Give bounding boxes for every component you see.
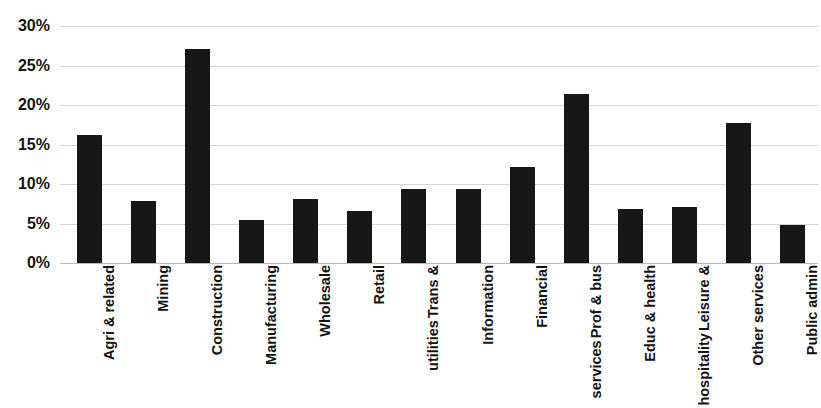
bar: [564, 94, 589, 263]
x-axis-tick-label: Wholesale: [318, 265, 348, 408]
bar: [239, 220, 264, 263]
x-axis-tick-label: Financial: [535, 265, 565, 408]
x-axis-tick-label-line: Leisure &: [697, 265, 712, 331]
y-axis-tick-label: 25%: [0, 58, 50, 74]
y-axis-tick-label: 30%: [0, 18, 50, 34]
y-axis-tick-label: 10%: [0, 176, 50, 192]
bar: [77, 135, 102, 263]
x-axis-labels: Agri & relatedMiningConstructionManufact…: [60, 265, 818, 408]
bar: [347, 211, 372, 263]
bar: [510, 167, 535, 263]
x-axis-tick-label-line: hospitality: [697, 333, 712, 406]
x-axis-tick-label: Information: [481, 265, 511, 408]
y-axis-tick-label: 20%: [0, 97, 50, 113]
bar: [293, 199, 318, 263]
axis-baseline: [60, 263, 818, 264]
x-axis-tick-label: Other services: [751, 265, 781, 408]
x-axis-tick-label: Retail: [372, 265, 402, 408]
x-axis-tick-label-line: Prof & bus: [589, 265, 604, 338]
bar: [456, 189, 481, 263]
y-axis-tick-label: 15%: [0, 137, 50, 153]
x-axis-tick-label: Manufacturing: [264, 265, 294, 408]
x-axis-tick-label: Agri & related: [102, 265, 132, 408]
x-axis-tick-label-line: utilities: [426, 320, 441, 371]
x-axis-tick-label-line: Trans &: [426, 265, 441, 318]
x-axis-tick-label-line: Financial: [535, 265, 550, 328]
x-axis-tick-label: Mining: [156, 265, 186, 408]
x-axis-tick-label: Educ & health: [643, 265, 673, 408]
bar: [131, 201, 156, 263]
x-axis-tick-label: Public admin: [805, 265, 821, 408]
x-axis-tick-label-line: Public admin: [805, 265, 820, 355]
x-axis-tick-label: Leisure &hospitality: [697, 265, 727, 408]
bar: [401, 189, 426, 263]
x-axis-tick-label-line: Educ & health: [643, 265, 658, 362]
bar: [726, 123, 751, 263]
x-axis-tick-label-line: Retail: [372, 265, 387, 305]
x-axis-tick-label: Construction: [210, 265, 240, 408]
bar: [672, 207, 697, 263]
x-axis-tick-label-line: Agri & related: [102, 265, 117, 360]
bar-chart: BY INDUSTRY, 2005 0%5%10%15%20%25%30% Ag…: [0, 0, 821, 408]
x-axis-tick-label: Prof & busservices: [589, 265, 619, 408]
x-axis-tick-label-line: Other services: [751, 265, 766, 366]
bar: [185, 49, 210, 263]
y-axis-tick-label: 0%: [0, 255, 50, 271]
x-axis-tick-label-line: Manufacturing: [264, 265, 279, 365]
bar: [618, 209, 643, 264]
y-axis-tick-label: 5%: [0, 216, 50, 232]
x-axis-tick-label-line: Mining: [156, 265, 171, 312]
x-axis-tick-label-line: services: [589, 340, 604, 398]
x-axis-tick-label: Trans &utilities: [426, 265, 456, 408]
x-axis-tick-label-line: Construction: [210, 265, 225, 355]
x-axis-tick-label-line: Wholesale: [318, 265, 333, 337]
bar-series: [60, 26, 818, 263]
x-axis-tick-label-line: Information: [481, 265, 496, 345]
bar: [780, 225, 805, 263]
